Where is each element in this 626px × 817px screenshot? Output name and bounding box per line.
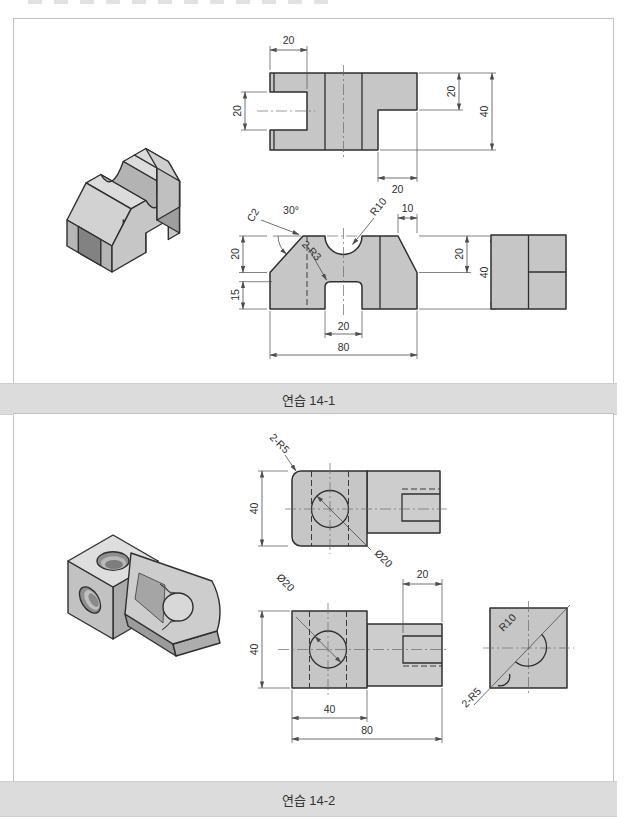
dim-label: R10 (367, 195, 389, 218)
dim-label: 15 (229, 289, 241, 301)
dim-label: 40 (478, 267, 490, 279)
dim-label: C2 (244, 206, 261, 224)
iso-view-2 (68, 535, 220, 656)
dim-label: 20 (445, 86, 457, 98)
dim-label: 40 (478, 106, 490, 118)
dim-label: 2-R5 (459, 685, 484, 710)
caption-text: 연습 14-1 (282, 390, 336, 409)
dim-label: 10 (402, 202, 414, 214)
front-view-1: 20 15 20 40 10 30° C2 R10 2-R3 (229, 195, 496, 359)
side-view-2: R10 2-R5 (459, 601, 574, 710)
exercise-2-drawing: 40 2-R5 Ø20 Ø20 20 40 (13, 413, 613, 787)
dim-label: 80 (361, 724, 373, 736)
dim-label: 30° (283, 204, 299, 216)
exercise-1-drawing: 20 20 20 40 20 20 (13, 18, 613, 383)
exercise-2-caption: 연습 14-2 (0, 781, 617, 817)
dim-label: 20 (231, 105, 243, 117)
dim-label: 20 (283, 34, 295, 46)
dim-label: 20 (392, 183, 404, 195)
dim-label: 20 (417, 568, 429, 580)
dim-label: 20 (453, 248, 465, 260)
cropped-page-header (28, 0, 338, 4)
textbook-page: 20 20 20 40 20 20 (0, 0, 626, 817)
dim-label: 80 (338, 341, 350, 353)
side-view-1 (491, 235, 566, 309)
dim-label: 40 (324, 703, 336, 715)
front-view-2: Ø20 20 40 40 80 (248, 568, 447, 743)
dim-label: Ø20 (275, 571, 298, 594)
top-view-2: 40 2-R5 Ø20 (248, 431, 447, 570)
caption-text: 연습 14-2 (282, 790, 336, 809)
top-view-1: 20 20 20 40 20 (231, 34, 496, 195)
dim-label: 20 (338, 320, 350, 332)
dim-label: Ø20 (373, 547, 396, 570)
dim-label: 40 (248, 503, 260, 515)
dim-label: 2-R5 (268, 431, 293, 456)
dim-label: 20 (229, 248, 241, 260)
exercise-1-caption: 연습 14-1 (0, 383, 617, 415)
dim-label: 40 (248, 644, 260, 656)
iso-view-1 (67, 149, 180, 273)
